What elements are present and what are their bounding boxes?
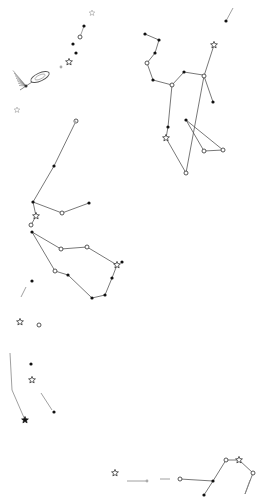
constellation-line — [186, 45, 214, 173]
star-ring-icon — [78, 35, 82, 39]
faint-line — [245, 480, 250, 494]
star-dot-icon — [211, 479, 214, 482]
constellation-line — [166, 85, 186, 173]
star-shape-icon — [33, 212, 40, 219]
star-dot-icon — [66, 273, 69, 276]
constellation-line — [180, 460, 253, 494]
star-dot-icon — [31, 200, 34, 203]
star-dot-icon — [30, 230, 33, 233]
faint-line — [41, 393, 52, 410]
star-shape-icon — [211, 41, 218, 48]
star-dot-icon — [90, 296, 93, 299]
star-dot-icon — [74, 51, 77, 54]
constellation-line — [204, 481, 213, 495]
constellation-line — [186, 120, 223, 151]
stars — [14, 10, 255, 497]
faint-line — [226, 8, 233, 21]
star-ring-icon — [145, 61, 149, 65]
star-dot-icon — [82, 24, 85, 27]
star-dot-icon — [182, 70, 185, 73]
star-chart — [0, 0, 258, 498]
star-shape-icon — [17, 318, 24, 325]
star-dot-icon — [71, 42, 74, 45]
constellation-upper-right-figure — [145, 34, 223, 173]
star-dot-icon — [52, 164, 55, 167]
star-shape-icon — [163, 134, 170, 141]
faint-line — [21, 287, 26, 297]
star-shape-icon — [114, 261, 121, 268]
star-ring-icon — [37, 323, 41, 327]
star-dot-icon — [151, 78, 154, 81]
star-ring-icon — [184, 171, 188, 175]
star-dot-icon — [103, 293, 106, 296]
star-dot-icon — [30, 279, 33, 282]
star-dot-icon — [224, 19, 227, 22]
faint-line — [10, 353, 25, 420]
star-ring-icon — [178, 477, 182, 481]
star-ring-icon — [224, 458, 228, 462]
star-dark-icon — [22, 416, 29, 423]
star-ring-icon — [202, 74, 206, 78]
faint-star-icon — [14, 107, 20, 112]
star-ring-icon — [170, 83, 174, 87]
extra-strokes — [10, 8, 250, 494]
star-dot-icon — [110, 276, 113, 279]
galaxy-icon — [29, 69, 51, 85]
star-dot-icon — [87, 201, 90, 204]
faint-dot-icon — [146, 480, 149, 483]
constellation-lines — [31, 34, 253, 495]
star-ring-icon — [59, 247, 63, 251]
star-dot-icon — [52, 410, 55, 413]
star-ring-icon — [53, 269, 57, 273]
constellation-line — [33, 121, 89, 213]
faint-dot-icon — [60, 66, 63, 69]
star-ring-icon — [29, 223, 33, 227]
star-dot-icon — [166, 125, 169, 128]
star-ring-icon — [60, 211, 64, 215]
star-ring-icon — [202, 149, 206, 153]
star-dot-icon — [211, 100, 214, 103]
constellation-line — [32, 232, 117, 298]
deep-sky-objects — [13, 69, 51, 90]
constellation-line — [145, 34, 203, 85]
star-dot-icon — [153, 51, 156, 54]
constellation-bottom-right-figure — [180, 460, 253, 495]
star-dot-icon — [120, 260, 123, 263]
star-dot-icon — [157, 38, 160, 41]
faint-dot-icon — [74, 121, 77, 124]
constellation-middle-left-figure — [31, 121, 117, 298]
star-dot-icon — [184, 118, 187, 121]
faint-star-icon — [89, 10, 95, 15]
star-ring-icon — [85, 245, 89, 249]
star-shape-icon — [66, 58, 73, 65]
star-dot-icon — [202, 493, 205, 496]
star-shape-icon — [112, 469, 119, 476]
star-ring-icon — [221, 148, 225, 152]
star-dot-icon — [29, 362, 32, 365]
star-ring-icon — [251, 471, 255, 475]
constellation-line — [204, 76, 213, 102]
star-shape-icon — [29, 376, 36, 383]
comet-icon — [13, 71, 32, 91]
star-dot-icon — [143, 32, 146, 35]
